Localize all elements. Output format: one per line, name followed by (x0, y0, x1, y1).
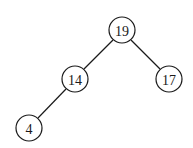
tree-node-19: 19 (109, 17, 135, 43)
node-label: 19 (115, 24, 129, 39)
edge-19-17 (131, 40, 160, 69)
node-label: 17 (162, 73, 176, 88)
node-label: 14 (68, 73, 82, 88)
edge-14-4 (38, 89, 66, 118)
tree-node-17: 17 (156, 66, 182, 92)
tree-node-4: 4 (16, 115, 42, 141)
node-label: 4 (26, 122, 33, 137)
edges (38, 40, 160, 118)
edge-19-14 (84, 40, 113, 69)
binary-tree-diagram: 19 14 17 4 (0, 0, 193, 148)
tree-node-14: 14 (62, 66, 88, 92)
